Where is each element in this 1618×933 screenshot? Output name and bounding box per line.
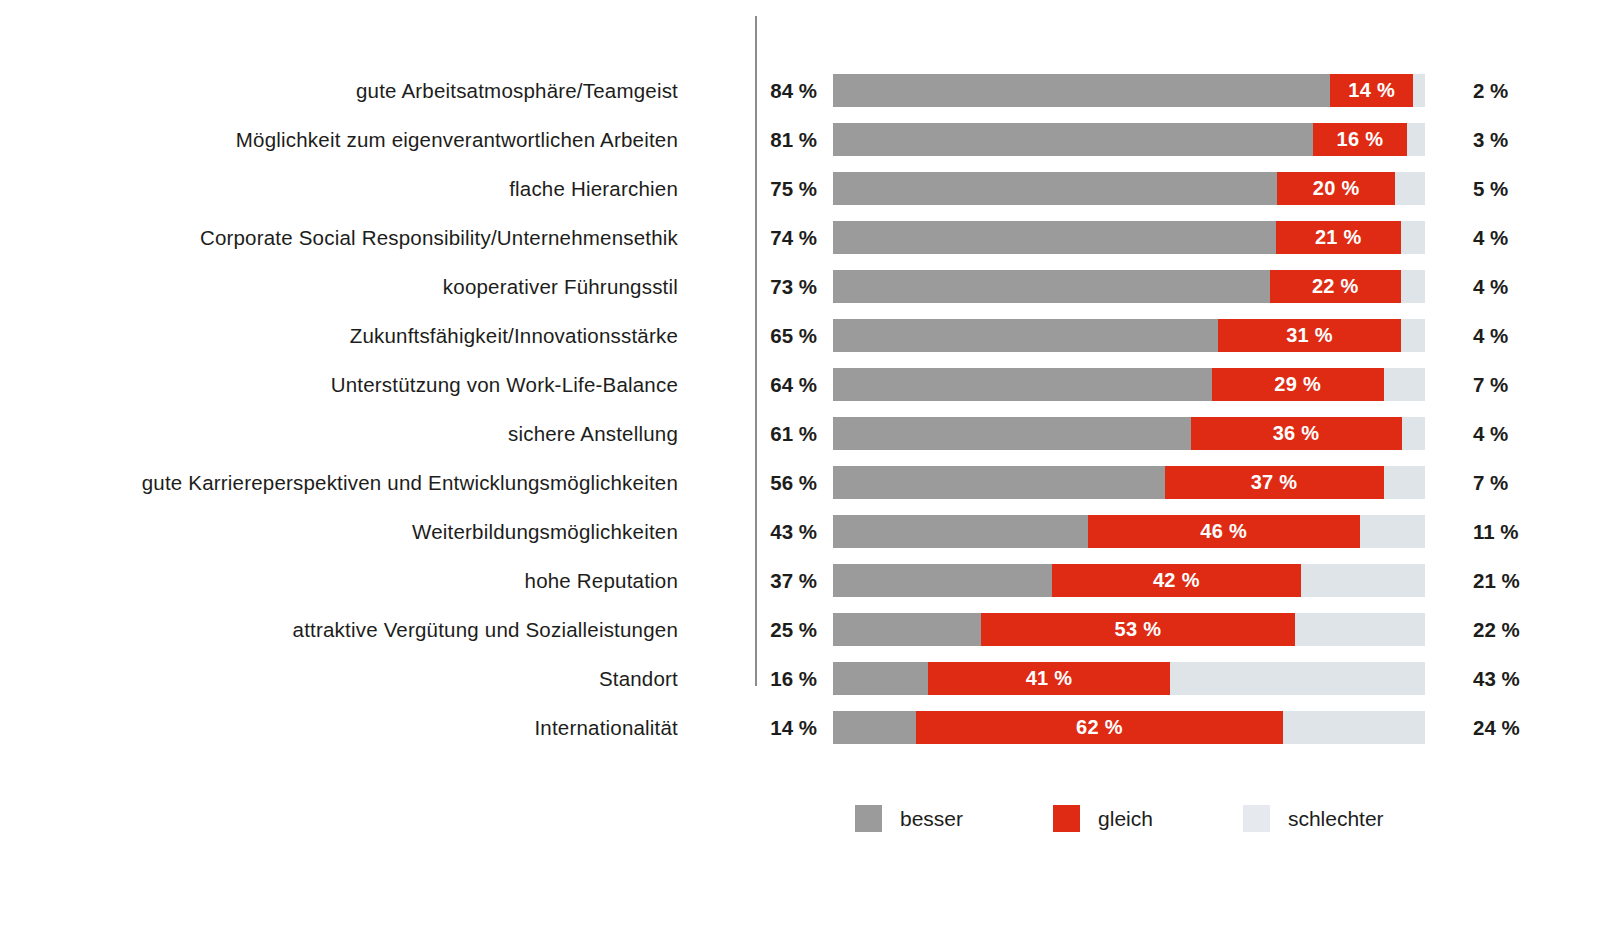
chart-row: sichere Anstellung61 %36 %4 %: [0, 409, 1618, 458]
gleich-value-label: 37 %: [1251, 471, 1298, 494]
stacked-bar: 37 %: [833, 466, 1425, 499]
besser-value-label: 56 %: [700, 471, 825, 495]
gleich-value-label: 31 %: [1286, 324, 1333, 347]
besser-value-label: 75 %: [700, 177, 825, 201]
gleich-value-label: 42 %: [1153, 569, 1200, 592]
gleich-value-label: 53 %: [1114, 618, 1161, 641]
bar-segment-schlechter: [1395, 172, 1425, 205]
category-label: kooperativer Führungsstil: [0, 275, 700, 299]
stacked-bar: 16 %: [833, 123, 1425, 156]
category-label: gute Arbeitsatmosphäre/Teamgeist: [0, 79, 700, 103]
schlechter-value-label: 43 %: [1425, 667, 1575, 691]
bar-segment-besser: [833, 662, 928, 695]
bar-segment-gleich: 36 %: [1191, 417, 1402, 450]
besser-value-label: 25 %: [700, 618, 825, 642]
bar-segment-schlechter: [1413, 74, 1425, 107]
schlechter-value-label: 4 %: [1425, 422, 1575, 446]
legend-label: gleich: [1098, 807, 1153, 831]
chart-row: kooperativer Führungsstil73 %22 %4 %: [0, 262, 1618, 311]
bar-segment-besser: [833, 123, 1313, 156]
gleich-value-label: 20 %: [1313, 177, 1360, 200]
schlechter-value-label: 22 %: [1425, 618, 1575, 642]
bar-segment-besser: [833, 270, 1270, 303]
besser-value-label: 16 %: [700, 667, 825, 691]
bar-segment-besser: [833, 74, 1330, 107]
besser-value-label: 37 %: [700, 569, 825, 593]
chart-row: Möglichkeit zum eigenverantwortlichen Ar…: [0, 115, 1618, 164]
legend-label: schlechter: [1288, 807, 1384, 831]
stacked-bar: 22 %: [833, 270, 1425, 303]
gleich-value-label: 36 %: [1273, 422, 1320, 445]
besser-value-label: 43 %: [700, 520, 825, 544]
bar-segment-schlechter: [1407, 123, 1425, 156]
legend-label: besser: [900, 807, 963, 831]
bar-segment-gleich: 46 %: [1088, 515, 1360, 548]
gleich-value-label: 29 %: [1274, 373, 1321, 396]
schlechter-value-label: 3 %: [1425, 128, 1575, 152]
stacked-bar: 53 %: [833, 613, 1425, 646]
chart-row: Internationalität14 %62 %24 %: [0, 703, 1618, 752]
legend-swatch-icon: [855, 805, 882, 832]
besser-value-label: 61 %: [700, 422, 825, 446]
bar-segment-gleich: 31 %: [1218, 319, 1402, 352]
bar-segment-besser: [833, 172, 1277, 205]
schlechter-value-label: 11 %: [1425, 520, 1575, 544]
bar-segment-schlechter: [1401, 319, 1425, 352]
bar-segment-besser: [833, 221, 1276, 254]
bar-segment-gleich: 21 %: [1276, 221, 1402, 254]
stacked-bar: 20 %: [833, 172, 1425, 205]
stacked-bar: 29 %: [833, 368, 1425, 401]
category-label: sichere Anstellung: [0, 422, 700, 446]
legend-item: gleich: [1053, 805, 1153, 832]
category-label: Corporate Social Responsibility/Unterneh…: [0, 226, 700, 250]
bar-segment-gleich: 14 %: [1330, 74, 1413, 107]
besser-value-label: 64 %: [700, 373, 825, 397]
besser-value-label: 81 %: [700, 128, 825, 152]
bar-segment-schlechter: [1283, 711, 1425, 744]
schlechter-value-label: 4 %: [1425, 226, 1575, 250]
legend-swatch-icon: [1243, 805, 1270, 832]
bar-segment-gleich: 37 %: [1165, 466, 1384, 499]
bar-segment-besser: [833, 319, 1218, 352]
stacked-bar: 31 %: [833, 319, 1425, 352]
bar-segment-schlechter: [1402, 417, 1425, 450]
category-label: attraktive Vergütung und Sozialleistunge…: [0, 618, 700, 642]
bar-segment-gleich: 41 %: [928, 662, 1171, 695]
bar-segment-besser: [833, 466, 1165, 499]
bar-segment-besser: [833, 417, 1191, 450]
schlechter-value-label: 21 %: [1425, 569, 1575, 593]
chart-row: Unterstützung von Work-Life-Balance64 %2…: [0, 360, 1618, 409]
bar-segment-gleich: 29 %: [1212, 368, 1384, 401]
besser-value-label: 84 %: [700, 79, 825, 103]
category-label: Möglichkeit zum eigenverantwortlichen Ar…: [0, 128, 700, 152]
chart-row: attraktive Vergütung und Sozialleistunge…: [0, 605, 1618, 654]
stacked-bar: 36 %: [833, 417, 1425, 450]
bar-segment-schlechter: [1295, 613, 1425, 646]
bar-segment-schlechter: [1401, 270, 1425, 303]
gleich-value-label: 46 %: [1200, 520, 1247, 543]
bar-segment-besser: [833, 613, 981, 646]
schlechter-value-label: 4 %: [1425, 324, 1575, 348]
chart-legend: bessergleichschlechter: [855, 805, 1384, 832]
stacked-bar: 41 %: [833, 662, 1425, 695]
gleich-value-label: 41 %: [1026, 667, 1073, 690]
category-label: hohe Reputation: [0, 569, 700, 593]
schlechter-value-label: 24 %: [1425, 716, 1575, 740]
schlechter-value-label: 2 %: [1425, 79, 1575, 103]
gleich-value-label: 21 %: [1315, 226, 1362, 249]
schlechter-value-label: 7 %: [1425, 471, 1575, 495]
chart-rows: gute Arbeitsatmosphäre/Teamgeist84 %14 %…: [0, 66, 1618, 752]
stacked-bar: 62 %: [833, 711, 1425, 744]
chart-row: flache Hierarchien75 %20 %5 %: [0, 164, 1618, 213]
bar-segment-schlechter: [1301, 564, 1425, 597]
bar-segment-schlechter: [1384, 466, 1425, 499]
chart-row: Weiterbildungsmöglichkeiten43 %46 %11 %: [0, 507, 1618, 556]
besser-value-label: 74 %: [700, 226, 825, 250]
gleich-value-label: 14 %: [1348, 79, 1395, 102]
category-label: Weiterbildungsmöglichkeiten: [0, 520, 700, 544]
legend-item: schlechter: [1243, 805, 1384, 832]
besser-value-label: 65 %: [700, 324, 825, 348]
bar-segment-gleich: 62 %: [916, 711, 1283, 744]
bar-segment-besser: [833, 711, 916, 744]
stacked-bar: 46 %: [833, 515, 1425, 548]
